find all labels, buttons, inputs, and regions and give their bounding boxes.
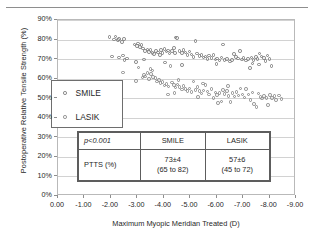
- legend-marker-smile-icon: [63, 91, 67, 95]
- y-tick-label: 30%: [2, 133, 52, 140]
- legend-item-smile: SMILE: [52, 81, 122, 105]
- data-point-smile: [172, 46, 176, 50]
- x-tick-mark: [136, 195, 137, 198]
- legend-box: SMILE LASIK: [51, 80, 123, 128]
- data-point-smile: [134, 60, 138, 64]
- legend-label-lasik: LASIK: [76, 112, 100, 122]
- data-point-lasik: [137, 66, 141, 70]
- data-point-lasik: [166, 93, 170, 97]
- data-point-lasik: [207, 93, 211, 97]
- y-tick-mark: [54, 175, 57, 176]
- stats-value-lasik-range: (45 to 72): [206, 165, 270, 174]
- y-tick-mark: [54, 19, 57, 20]
- data-point-smile: [256, 57, 260, 61]
- data-point-smile: [108, 35, 112, 39]
- data-point-smile: [117, 56, 121, 60]
- data-point-smile: [264, 59, 268, 63]
- y-tick-label: 40%: [2, 113, 52, 120]
- data-point-smile: [248, 66, 252, 70]
- x-tick-mark: [242, 195, 243, 198]
- data-point-smile: [120, 40, 124, 44]
- stats-table-header-row: p<0.001 SMILE LASIK: [79, 133, 270, 150]
- y-tick-label: 80%: [2, 35, 52, 42]
- legend-item-lasik: LASIK: [52, 105, 122, 129]
- data-point-lasik: [251, 91, 255, 95]
- data-point-smile: [161, 51, 165, 55]
- data-point-lasik: [274, 98, 278, 102]
- data-point-smile: [180, 63, 184, 67]
- data-point-smile: [257, 63, 261, 67]
- data-point-lasik: [151, 69, 155, 73]
- data-point-smile: [206, 57, 210, 61]
- data-point-lasik: [249, 98, 253, 102]
- x-tick-mark: [163, 195, 164, 198]
- stats-value-lasik-mean: 57±6: [206, 155, 270, 164]
- data-point-smile: [192, 55, 196, 59]
- legend-label-smile: SMILE: [76, 88, 101, 98]
- y-tick-mark: [54, 97, 57, 98]
- y-tick-label: 60%: [2, 74, 52, 81]
- data-point-smile: [230, 58, 234, 62]
- y-tick-label: 20%: [2, 152, 52, 159]
- stats-table-col-lasik: LASIK: [205, 133, 270, 150]
- data-point-smile: [270, 64, 274, 68]
- x-tick-mark: [295, 195, 296, 198]
- data-point-lasik: [280, 97, 284, 101]
- data-point-smile: [251, 62, 255, 66]
- data-point-lasik: [225, 89, 229, 93]
- figure-scatter-plot: Postoperative Relative Tensile Strength …: [0, 0, 314, 236]
- data-point-smile: [122, 37, 126, 41]
- data-point-lasik: [177, 78, 181, 82]
- data-point-smile: [221, 43, 225, 47]
- data-point-lasik: [237, 94, 241, 98]
- y-tick-mark: [54, 136, 57, 137]
- data-point-smile: [238, 49, 242, 53]
- data-point-lasik: [247, 93, 251, 97]
- y-tick-label: 50%: [2, 94, 52, 101]
- data-point-lasik: [201, 82, 205, 86]
- y-tick-label: 0%: [2, 191, 52, 198]
- data-point-smile: [163, 61, 167, 65]
- data-point-lasik: [216, 101, 220, 105]
- legend-marker-lasik-icon: [63, 115, 67, 119]
- x-tick-mark: [216, 195, 217, 198]
- stats-table-grid: p<0.001 SMILE LASIK PTTS (%) 73±4 (65 to…: [78, 132, 270, 181]
- top-divider-rule: [6, 7, 308, 8]
- stats-table-row: PTTS (%) 73±4 (65 to 82) 57±6 (45 to 72): [79, 149, 270, 180]
- data-point-lasik: [169, 64, 173, 68]
- data-point-lasik: [239, 87, 243, 91]
- stats-table-cell-lasik: 57±6 (45 to 72): [205, 149, 270, 180]
- y-tick-mark: [54, 117, 57, 118]
- data-point-lasik: [192, 80, 196, 84]
- data-point-smile: [186, 53, 190, 57]
- data-point-smile: [268, 57, 272, 61]
- data-point-lasik: [200, 92, 204, 96]
- data-point-lasik: [174, 86, 178, 90]
- data-point-smile: [194, 39, 198, 43]
- data-point-smile: [215, 62, 219, 66]
- x-axis-title: Maximum Myopic Meridian Treated (D): [57, 219, 295, 228]
- y-tick-mark: [54, 156, 57, 157]
- data-point-lasik: [229, 100, 233, 104]
- data-point-smile: [121, 54, 125, 58]
- x-tick-mark: [269, 195, 270, 198]
- data-point-lasik: [173, 91, 177, 95]
- x-tick-mark: [83, 195, 84, 198]
- data-point-lasik: [167, 85, 171, 89]
- x-tick-mark: [110, 195, 111, 198]
- x-tick-mark: [57, 195, 58, 198]
- stats-table-pvalue-cell: p<0.001: [79, 133, 141, 150]
- y-tick-mark: [54, 78, 57, 79]
- data-point-lasik: [265, 96, 269, 100]
- data-point-lasik: [121, 71, 125, 75]
- data-point-lasik: [244, 87, 248, 91]
- gridline-y: [58, 20, 294, 21]
- data-point-lasik: [220, 100, 224, 104]
- data-point-lasik: [266, 103, 270, 107]
- y-tick-label: 70%: [2, 55, 52, 62]
- stats-table-col-smile: SMILE: [141, 133, 206, 150]
- data-point-lasik: [134, 79, 138, 83]
- stats-value-smile-range: (65 to 82): [141, 165, 205, 174]
- x-tick-mark: [189, 195, 190, 198]
- data-point-lasik: [190, 90, 194, 94]
